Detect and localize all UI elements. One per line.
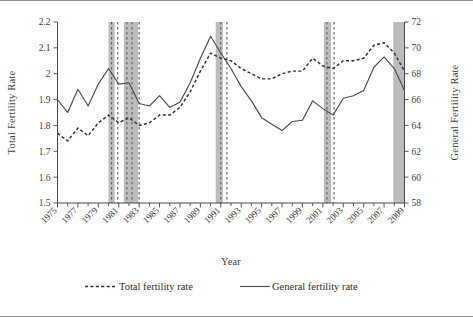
- recession-bands-layer: [109, 22, 405, 203]
- recession-band: [393, 22, 404, 203]
- x-tick-label: 2007: [365, 205, 385, 225]
- y-right-tick-label: 60: [412, 173, 422, 183]
- x-tick-label: 1991: [202, 205, 222, 225]
- y-left-tick-label: 2: [46, 69, 51, 79]
- x-tick-label: 1997: [263, 205, 283, 225]
- x-tick-label: 2009: [386, 205, 406, 225]
- figure-container: 1.51.61.71.81.922.12.2586062646668707219…: [0, 0, 473, 317]
- y-left-axis-title: Total Fertility Rate: [6, 70, 17, 154]
- axes-layer: [54, 22, 409, 208]
- x-tick-label: 2003: [325, 205, 345, 225]
- y-right-tick-label: 64: [412, 121, 422, 131]
- x-tick-label: 1985: [141, 205, 161, 225]
- y-right-tick-label: 66: [412, 95, 422, 105]
- y-left-tick-label: 2.2: [39, 17, 51, 27]
- y-right-tick-label: 70: [412, 43, 422, 53]
- x-tick-label: 2001: [304, 205, 324, 225]
- recession-band: [216, 22, 223, 203]
- y-right-tick-label: 68: [412, 69, 422, 79]
- x-tick-label: 1993: [223, 205, 243, 225]
- y-right-axis-title: General Fertility Rate: [449, 64, 460, 160]
- x-tick-label: 1977: [59, 205, 79, 225]
- y-right-tick-label: 62: [412, 147, 422, 157]
- axis-labels-layer: 1.51.61.71.81.922.12.2586062646668707219…: [6, 17, 460, 267]
- x-tick-label: 1999: [284, 205, 304, 225]
- recession-band: [124, 22, 138, 203]
- legend-label-total-fertility-rate: Total fertility rate: [119, 281, 193, 292]
- y-right-tick-label: 58: [412, 198, 422, 208]
- x-axis-title: Year: [221, 256, 241, 267]
- y-left-tick-label: 1.6: [39, 173, 51, 183]
- x-tick-label: 1995: [243, 205, 263, 225]
- x-tick-label: 1979: [80, 205, 100, 225]
- x-tick-label: 2005: [345, 205, 365, 225]
- x-tick-label: 1989: [182, 205, 202, 225]
- x-tick-label: 1987: [161, 205, 181, 225]
- y-left-tick-label: 1.7: [39, 147, 51, 157]
- y-left-tick-label: 1.9: [39, 95, 51, 105]
- x-tick-label: 1983: [120, 205, 140, 225]
- chart-legend: Total fertility rateGeneral fertility ra…: [85, 281, 358, 292]
- y-left-tick-label: 1.8: [39, 121, 51, 131]
- legend-label-general-fertility-rate: General fertility rate: [272, 281, 358, 292]
- fertility-rate-line-chart: 1.51.61.71.81.922.12.2586062646668707219…: [0, 1, 473, 317]
- y-right-tick-label: 72: [412, 17, 422, 27]
- y-left-tick-label: 2.1: [39, 43, 51, 53]
- x-tick-label: 1981: [100, 205, 120, 225]
